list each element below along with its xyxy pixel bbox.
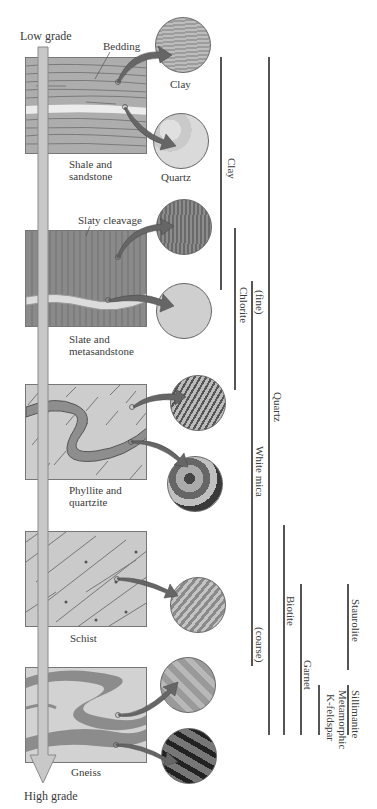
mineral-label-white-mica: White mica xyxy=(254,446,266,497)
range-line-biotite xyxy=(283,525,285,735)
mineral-label-k-feldspar: K-feldspar xyxy=(325,694,337,741)
mineral-label-quartz: Quartz xyxy=(272,392,284,422)
rock-label-phyllite-line2: quartzite xyxy=(69,496,107,508)
mineral-label-metamorphic: Metamorphic xyxy=(337,690,349,749)
callout-bedding: Bedding xyxy=(103,40,140,52)
range-line-quartz xyxy=(268,57,270,735)
circle-label-quartz: Quartz xyxy=(161,171,191,183)
mineral-label-white-mica-fine: (fine) xyxy=(254,290,266,314)
circle-quartz xyxy=(153,113,209,169)
circle-schist xyxy=(170,577,226,633)
high-grade-label: High grade xyxy=(24,790,78,802)
range-line-white-mica xyxy=(251,281,253,666)
mineral-label-sillimanite: Sillimanite xyxy=(350,690,362,738)
mineral-label-garnet: Garnet xyxy=(302,660,314,690)
circle-metasandstone xyxy=(156,283,212,339)
circle-phyllite xyxy=(170,375,226,431)
circle-quartzite xyxy=(167,456,223,512)
range-line-chlorite xyxy=(234,228,236,390)
low-grade-label: Low grade xyxy=(20,30,72,42)
mineral-label-biotite: Biotite xyxy=(285,596,297,626)
grade-arrow xyxy=(29,45,57,787)
rock-label-slate-line2: metasandstone xyxy=(69,345,134,357)
range-line-clay xyxy=(220,57,222,290)
circle-gneiss-light xyxy=(160,657,216,713)
rock-label-gneiss: Gneiss xyxy=(71,766,101,778)
circle-slate xyxy=(156,199,212,255)
range-line-staurolite xyxy=(347,584,349,670)
rock-label-schist: Schist xyxy=(70,632,97,644)
rock-label-shale-line1: Shale and xyxy=(69,158,112,170)
mineral-label-clay: Clay xyxy=(226,158,238,179)
rock-label-slate-line1: Slate and xyxy=(69,333,110,345)
range-line-k-feldspar xyxy=(318,685,320,735)
circle-clay xyxy=(155,17,211,73)
rock-label-phyllite-line1: Phyllite and xyxy=(69,484,122,496)
mineral-label-staurolite: Staurolite xyxy=(350,599,362,642)
callout-slaty-cleavage: Slaty cleavage xyxy=(78,214,142,226)
circle-gneiss-dark xyxy=(161,728,217,784)
mineral-label-chlorite: Chlorite xyxy=(238,287,250,323)
mineral-label-white-mica-coarse: (coarse) xyxy=(254,627,266,662)
rock-label-shale-line2: sandstone xyxy=(69,170,112,182)
circle-label-clay: Clay xyxy=(170,78,191,90)
